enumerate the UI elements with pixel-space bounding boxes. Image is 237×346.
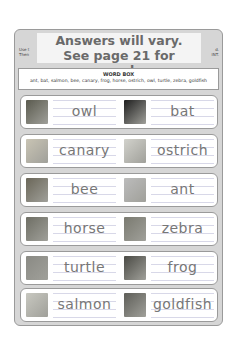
answer-cell: zebra xyxy=(121,213,217,245)
answer-word: owl xyxy=(53,102,116,120)
answer-word: salmon xyxy=(53,295,116,313)
bat-photo xyxy=(124,100,146,124)
word-box-title: WORD BOX xyxy=(19,71,218,78)
ruled-line xyxy=(151,256,214,257)
ruled-line xyxy=(53,202,116,203)
ruled-line xyxy=(53,178,116,179)
ruled-line xyxy=(151,124,214,125)
answer-word: bee xyxy=(53,180,116,198)
canary-photo xyxy=(26,139,48,163)
answer-cell: salmon xyxy=(23,289,119,321)
answer-row: horsezebra xyxy=(20,212,218,246)
ruled-line xyxy=(53,100,116,101)
answer-line-1: Answers will vary. xyxy=(37,34,201,48)
answer-row: canaryostrich xyxy=(20,134,218,168)
answer-word: ostrich xyxy=(151,141,214,159)
ostrich-photo xyxy=(124,139,146,163)
answer-word: canary xyxy=(53,141,116,159)
ruled-line xyxy=(53,163,116,164)
ruled-line xyxy=(151,139,214,140)
answer-word: goldfish xyxy=(151,295,214,313)
word-box: WORD BOX ant, bat, salmon, bee, canary, … xyxy=(18,68,219,90)
answer-row: salmongoldfish xyxy=(20,288,218,322)
salmon-photo xyxy=(26,293,48,317)
ruled-line xyxy=(151,317,214,318)
answer-overlay: Answers will vary. See page 21 for examp… xyxy=(37,33,201,63)
answer-cell: bat xyxy=(121,96,217,128)
word-box-words: ant, bat, salmon, bee, canary, frog, hor… xyxy=(19,78,218,84)
ruled-line xyxy=(151,293,214,294)
answer-word: zebra xyxy=(151,219,214,237)
ruled-line xyxy=(53,217,116,218)
answer-cell: horse xyxy=(23,213,119,245)
instruction-text: Then xyxy=(19,52,29,57)
ruled-line xyxy=(53,256,116,257)
bee-photo xyxy=(26,178,48,202)
turtle-photo xyxy=(26,256,48,280)
answer-cell: ostrich xyxy=(121,135,217,167)
ruled-line xyxy=(151,100,214,101)
ruled-line xyxy=(151,202,214,203)
ruled-line xyxy=(151,241,214,242)
answer-word: frog xyxy=(151,258,214,276)
answer-cell: goldfish xyxy=(121,289,217,321)
ruled-line xyxy=(151,163,214,164)
ruled-line xyxy=(53,241,116,242)
answer-row: beeant xyxy=(20,173,218,207)
answer-word: turtle xyxy=(53,258,116,276)
ruled-line xyxy=(53,139,116,140)
answer-cell: frog xyxy=(121,252,217,284)
ruled-line xyxy=(151,217,214,218)
instructions-left: Use t Then xyxy=(19,47,29,57)
answer-cell: bee xyxy=(23,174,119,206)
horse-photo xyxy=(26,217,48,241)
ruled-line xyxy=(53,124,116,125)
answer-cell: canary xyxy=(23,135,119,167)
ruled-line xyxy=(53,317,116,318)
ruled-line xyxy=(53,293,116,294)
instruction-text: INT. xyxy=(212,52,219,57)
answer-cell: ant xyxy=(121,174,217,206)
answer-cell: turtle xyxy=(23,252,119,284)
answer-row: turtlefrog xyxy=(20,251,218,285)
answer-cell: owl xyxy=(23,96,119,128)
ruled-line xyxy=(151,178,214,179)
frog-photo xyxy=(124,256,146,280)
worksheet-frame: Use t Then d. INT. Answers will vary. Se… xyxy=(14,29,223,326)
owl-photo xyxy=(26,100,48,124)
answer-word: ant xyxy=(151,180,214,198)
answer-word: horse xyxy=(53,219,116,237)
ant-photo xyxy=(124,178,146,202)
instructions-right: d. INT. xyxy=(212,47,219,57)
answer-row: owlbat xyxy=(20,95,218,129)
goldfish-photo xyxy=(124,293,146,317)
answer-word: bat xyxy=(151,102,214,120)
zebra-photo xyxy=(124,217,146,241)
ruled-line xyxy=(151,280,214,281)
ruled-line xyxy=(53,280,116,281)
